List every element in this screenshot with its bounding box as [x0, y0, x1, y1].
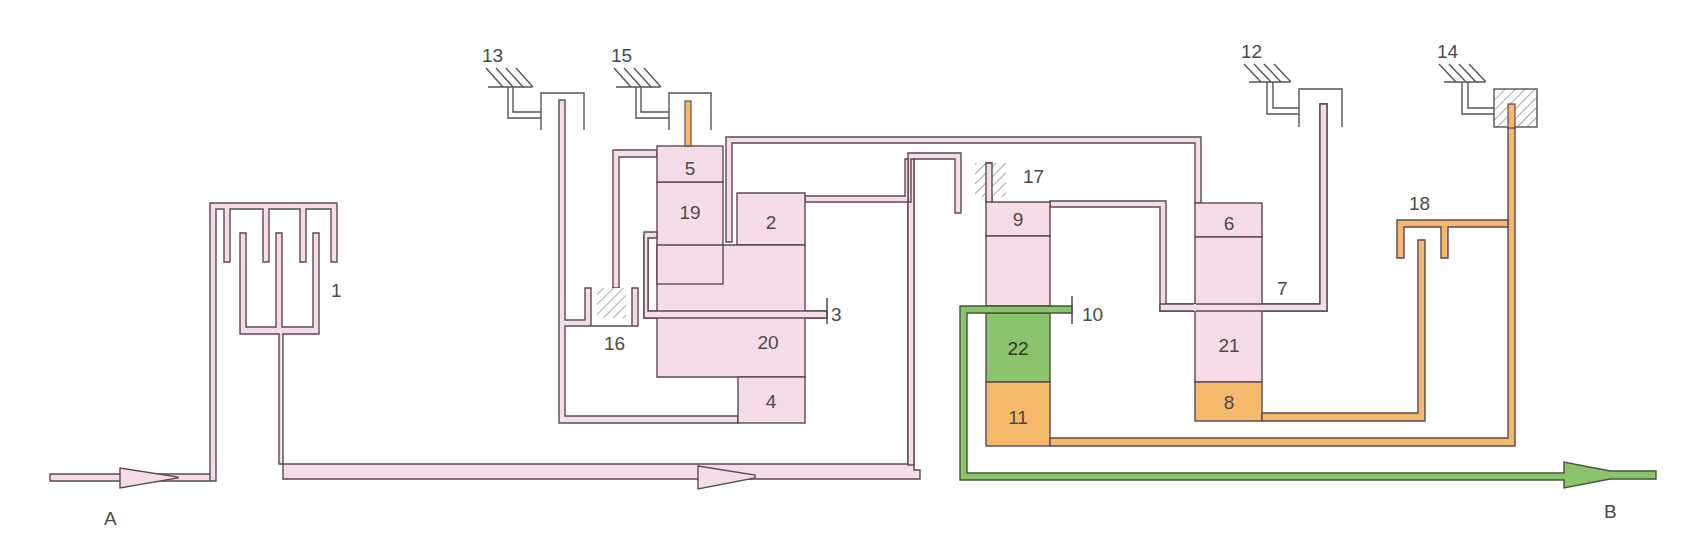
column-6-21-8 — [1195, 203, 1262, 421]
ground-13 — [486, 68, 584, 130]
ground-14 — [1439, 64, 1494, 114]
label-7: 7 — [1277, 278, 1288, 299]
pipe-16-to-5 — [613, 150, 657, 288]
label-11: 11 — [1008, 407, 1028, 428]
label-13: 13 — [482, 45, 503, 66]
column-9-22-11 — [986, 163, 1050, 446]
label-21: 21 — [1218, 335, 1239, 356]
label-9: 9 — [1013, 209, 1024, 230]
stem-15 — [685, 101, 691, 146]
block-19 — [657, 182, 723, 284]
arrow-inlet-a — [120, 468, 178, 488]
label-17: 17 — [1023, 166, 1044, 187]
label-19: 19 — [679, 202, 700, 223]
label-4: 4 — [766, 391, 777, 412]
label-5: 5 — [685, 158, 696, 179]
label-10: 10 — [1082, 304, 1103, 325]
pipe-11-to-14 — [1050, 104, 1515, 446]
outlet-pipe-b — [960, 306, 1656, 488]
green-pipes — [960, 306, 1656, 488]
label-22: 22 — [1007, 338, 1028, 359]
fork-18 — [1397, 220, 1508, 258]
label-8: 8 — [1224, 392, 1235, 413]
label-20: 20 — [757, 332, 778, 353]
label-output-b: B — [1604, 501, 1617, 522]
label-14: 14 — [1437, 41, 1459, 62]
label-12: 12 — [1241, 41, 1262, 62]
label-16: 16 — [604, 333, 625, 354]
label-1: 1 — [331, 280, 342, 301]
label-18: 18 — [1409, 193, 1430, 214]
inlet-pipe-a — [50, 203, 337, 481]
pipe-8-to-18 — [1262, 240, 1425, 421]
block-9-lower — [986, 236, 1050, 306]
ground-15 — [614, 68, 711, 130]
label-input-a: A — [104, 508, 117, 529]
label-3: 3 — [831, 304, 842, 325]
orange-pipes — [1050, 104, 1515, 446]
label-6: 6 — [1224, 213, 1235, 234]
label-2: 2 — [766, 212, 777, 233]
seat-16 — [597, 288, 626, 318]
label-15: 15 — [611, 45, 632, 66]
hydraulic-schematic: 1 2 3 4 5 6 7 8 9 10 11 12 13 14 15 16 1… — [0, 0, 1698, 558]
